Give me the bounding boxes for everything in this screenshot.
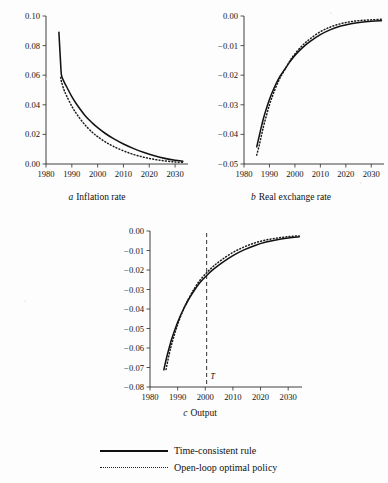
chart-b-caption: bReal exchange rate	[194, 192, 388, 202]
chart-panel-c: −0.08−0.07−0.06−0.05−0.04−0.03−0.02−0.01…	[92, 215, 308, 415]
y-tick-label: 0.00	[223, 11, 238, 21]
series-dotted	[61, 77, 183, 162]
y-tick-label: −0.08	[124, 382, 144, 392]
x-tick-label: 1980	[141, 392, 158, 402]
x-tick-label: 1990	[261, 169, 278, 179]
y-tick-label: 0.08	[25, 41, 40, 51]
y-tick-label: −0.05	[124, 324, 144, 334]
series-solid	[59, 32, 183, 161]
chart-b-canvas: −0.05−0.04−0.03−0.02−0.010.0019801990200…	[194, 0, 388, 200]
legend-item-open-loop-optimal-policy: Open-loop optimal policy	[96, 459, 336, 476]
y-tick-label: −0.07	[124, 363, 145, 373]
y-tick-label: 0.10	[25, 11, 40, 21]
chart-a-canvas: 0.000.020.040.060.080.101980199020002010…	[0, 0, 194, 200]
series-dotted	[257, 19, 382, 155]
legend-label-time-consistent-rule: Time-consistent rule	[170, 445, 256, 456]
scan-speck	[360, 182, 362, 184]
x-tick-label: 1990	[169, 392, 186, 402]
y-tick-label: −0.01	[218, 41, 238, 51]
figure-root: 0.000.020.040.060.080.101980199020002010…	[0, 0, 388, 483]
dotted-line-sample-icon	[96, 463, 170, 473]
series-solid	[257, 21, 382, 147]
x-tick-label: 2030	[363, 169, 380, 179]
figure-legend: Time-consistent rule Open-loop optimal p…	[96, 442, 336, 476]
chart-panel-a: 0.000.020.040.060.080.101980199020002010…	[0, 0, 194, 200]
x-tick-label: 2030	[166, 169, 183, 179]
x-tick-label: 2000	[286, 169, 303, 179]
y-tick-label: 0.00	[129, 226, 144, 236]
x-tick-label: 1980	[235, 169, 252, 179]
y-tick-label: −0.04	[218, 129, 239, 139]
chart-b-caption-letter: b	[251, 192, 259, 202]
chart-b-caption-title: Real exchange rate	[259, 192, 331, 202]
y-tick-label: −0.05	[218, 159, 238, 169]
chart-a-caption-title: Inflation rate	[76, 192, 125, 202]
y-tick-label: −0.02	[218, 70, 238, 80]
chart-a-caption: aInflation rate	[0, 192, 194, 202]
x-tick-label: 2020	[252, 392, 269, 402]
x-tick-label: 1990	[63, 169, 80, 179]
scan-speck	[330, 12, 332, 14]
x-tick-label: 2000	[89, 169, 106, 179]
x-tick-label: 2010	[115, 169, 132, 179]
legend-item-time-consistent-rule: Time-consistent rule	[96, 442, 336, 459]
solid-line-sample-icon	[96, 446, 170, 456]
y-tick-label: −0.03	[124, 285, 144, 295]
chart-c-caption-title: Output	[190, 408, 216, 418]
x-tick-label: 2020	[141, 169, 158, 179]
scan-speck	[46, 78, 48, 80]
y-tick-label: −0.06	[124, 343, 145, 353]
chart-panel-b: −0.05−0.04−0.03−0.02−0.010.0019801990200…	[194, 0, 388, 200]
y-tick-label: 0.02	[25, 129, 40, 139]
y-tick-label: −0.03	[218, 100, 238, 110]
x-tick-label: 2020	[337, 169, 354, 179]
y-tick-label: 0.00	[25, 159, 40, 169]
x-tick-label: 1980	[37, 169, 54, 179]
x-tick-label: 2010	[224, 392, 241, 402]
x-tick-label: 2010	[312, 169, 329, 179]
y-tick-label: 0.04	[25, 100, 41, 110]
x-tick-label: 2030	[280, 392, 297, 402]
series-solid	[164, 237, 299, 370]
legend-label-open-loop-optimal-policy: Open-loop optimal policy	[170, 462, 277, 473]
scan-speck	[24, 300, 26, 302]
x-tick-label: 2000	[197, 392, 214, 402]
y-tick-label: −0.02	[124, 265, 144, 275]
chart-c-canvas: −0.08−0.07−0.06−0.05−0.04−0.03−0.02−0.01…	[92, 215, 308, 415]
y-tick-label: −0.01	[124, 246, 144, 256]
vline-annotation-label: T̄	[210, 372, 215, 381]
y-tick-label: 0.06	[25, 70, 41, 80]
y-tick-label: −0.04	[124, 304, 145, 314]
chart-c-caption: cOutput	[92, 408, 308, 418]
